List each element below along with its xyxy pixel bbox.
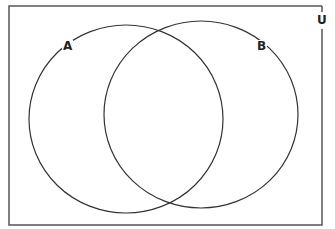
venn-diagram (0, 0, 335, 229)
universe-rectangle (9, 6, 322, 225)
set-b-circle (104, 21, 298, 208)
universe-label: U (316, 14, 328, 26)
set-a-label: A (62, 40, 73, 52)
set-b-label: B (256, 40, 267, 52)
set-a-circle (29, 25, 223, 213)
